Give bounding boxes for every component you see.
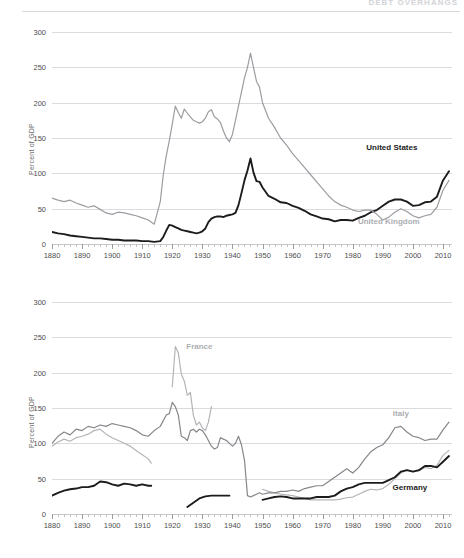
x-axis-tick-label: 1920 [164,251,181,260]
y-axis-ticks-bottom: 050100150200250300 [0,302,50,514]
series-line-germany [263,456,449,500]
series-line-italy [52,402,449,497]
x-axis-tick-label: 1960 [284,521,301,530]
y-axis-tick-label: 150 [33,404,46,413]
y-axis-ticks-top: 050100150200250300 [0,32,50,244]
x-axis-tick-label: 1990 [374,521,391,530]
series-line-united-kingdom [52,53,449,224]
y-axis-tick-label: 0 [42,510,46,519]
series-label-italy: Italy [393,408,409,417]
x-axis-tick-label: 1880 [44,521,61,530]
x-axis-tick-label: 1920 [164,521,181,530]
y-axis-tick-label: 100 [33,439,46,448]
x-axis-top: 1880189019001910192019301940195019601970… [52,244,452,274]
x-axis-tick-label: 2010 [435,521,452,530]
y-axis-tick-label: 50 [38,474,46,483]
x-axis-tick-label: 1890 [74,521,91,530]
plot-area-bottom: FranceItalyGermany [52,302,452,514]
plot-area-top: United StatesUnited Kingdom [52,32,452,244]
x-axis-tick-label: 1990 [374,251,391,260]
x-axis-tick-label: 1910 [134,521,151,530]
x-axis-tick-label: 1880 [44,251,61,260]
y-axis-tick-label: 100 [33,169,46,178]
series-label-france: France [186,341,212,350]
header-rule [22,11,460,12]
series-line-germany [187,496,229,507]
figure-page: DEBT OVERHANGS Percent of GDP 0501001502… [0,0,464,558]
x-axis-tick-label: 2000 [405,251,422,260]
series-line-united-states [52,158,449,241]
x-axis-tick-label: 1970 [314,521,331,530]
y-axis-tick-label: 0 [42,240,46,249]
x-axis-tick-label: 1930 [194,521,211,530]
y-axis-tick-label: 200 [33,98,46,107]
x-axis-tick-label: 1960 [284,251,301,260]
x-axis-tick-label: 1940 [224,251,241,260]
y-axis-tick-label: 200 [33,368,46,377]
page-header: DEBT OVERHANGS [0,0,464,12]
x-axis-tick-label: 1900 [104,251,121,260]
x-axis-tick-label: 1910 [134,251,151,260]
x-axis-tick-label: 1980 [344,521,361,530]
x-axis-tick-label: 1900 [104,521,121,530]
x-axis-tickmarks [52,244,452,249]
x-axis-tick-label: 1930 [194,251,211,260]
x-axis-tickmarks [52,514,452,519]
series-label-united-states: United States [366,143,417,152]
x-axis-tick-label: 1890 [74,251,91,260]
series-layer [52,32,452,244]
y-axis-tick-label: 300 [33,298,46,307]
series-line-germany [52,481,151,495]
series-label-united-kingdom: United Kingdom [358,216,420,225]
x-axis-tick-label: 1980 [344,251,361,260]
y-axis-tick-label: 50 [38,204,46,213]
y-axis-tick-label: 150 [33,134,46,143]
x-axis-tick-label: 1940 [224,521,241,530]
series-line-france [263,450,449,499]
x-axis-tick-label: 1950 [254,521,271,530]
x-axis-bottom: 1880189019001910192019301940195019601970… [52,514,452,544]
y-axis-tick-label: 250 [33,333,46,342]
x-axis-tick-label: 1950 [254,251,271,260]
series-line-france [52,429,151,463]
chart-bottom: Percent of GDP 050100150200250300 France… [0,288,464,556]
series-label-germany: Germany [393,483,428,492]
y-axis-tick-label: 250 [33,63,46,72]
x-axis-tick-label: 2000 [405,521,422,530]
y-axis-tick-label: 300 [33,28,46,37]
x-axis-tick-label: 1970 [314,251,331,260]
chart-top: Percent of GDP 050100150200250300 United… [0,18,464,280]
running-head: DEBT OVERHANGS [368,0,458,7]
x-axis-tick-label: 2010 [435,251,452,260]
